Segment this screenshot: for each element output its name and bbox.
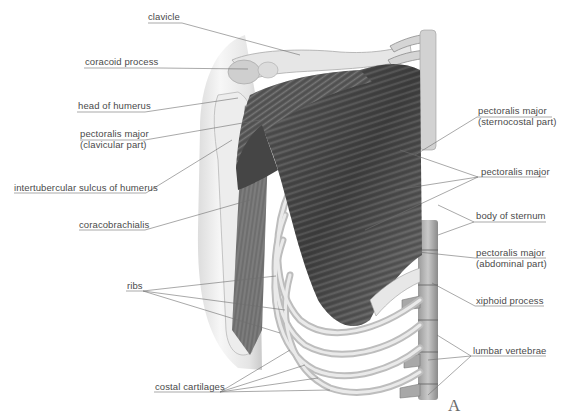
plate-letter: A	[448, 396, 460, 416]
label-xiphoid-process: xiphoid process	[476, 295, 544, 306]
label-line-1: pectoralis major	[478, 105, 556, 116]
label-ribs: ribs	[127, 280, 143, 291]
label-head-of-humerus: head of humerus	[78, 100, 151, 111]
label-line-2: (sternocostal part)	[478, 116, 556, 127]
label-clavicle: clavicle	[148, 11, 180, 22]
label-pectoralis-major-clavicular: pectoralis major (clavicular part)	[80, 128, 145, 150]
label-pectoralis-major-sternocostal: pectoralis major (sternocostal part)	[478, 105, 556, 127]
label-pectoralis-major-abdominal: pectoralis major (abdominal part)	[476, 247, 547, 269]
label-line-1: pectoralis major	[476, 247, 547, 258]
label-line-2: (clavicular part)	[80, 139, 145, 150]
label-line-1: pectoralis major	[80, 128, 145, 139]
label-lumbar-vertebrae: lumbar vertebrae	[473, 345, 546, 356]
label-body-of-sternum: body of sternum	[476, 210, 546, 221]
label-pectoralis-major: pectoralis major	[481, 166, 550, 177]
label-coracoid-process: coracoid process	[85, 56, 158, 67]
anatomy-figure: clavicle coracoid process head of humeru…	[0, 0, 562, 420]
label-intertubercular-sulcus: intertubercular sulcus of humerus	[14, 182, 158, 193]
label-line-2: (abdominal part)	[476, 258, 547, 269]
label-costal-cartilages: costal cartilages	[155, 381, 225, 392]
label-coracobrachialis: coracobrachialis	[79, 219, 149, 230]
